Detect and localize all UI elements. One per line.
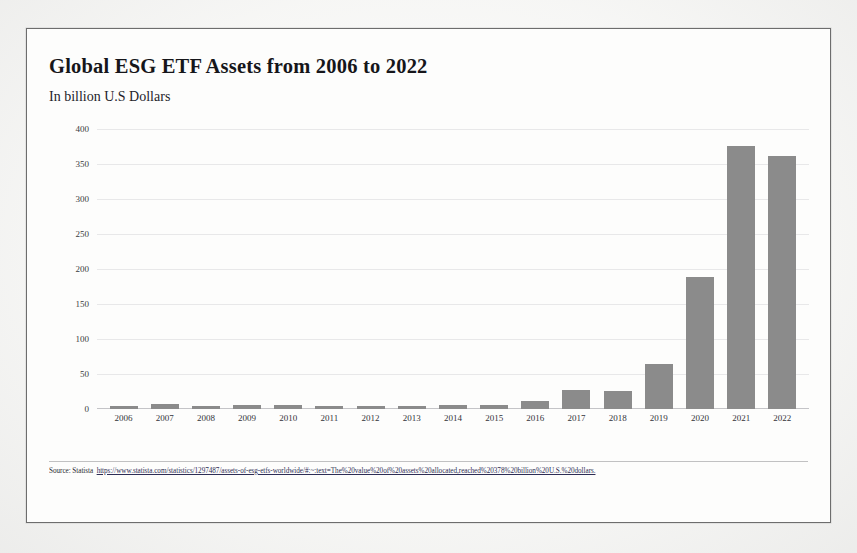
y-axis-tick-label: 50 [80,369,89,379]
x-axis-tick-label: 2016 [515,413,556,423]
bar-2012[interactable] [357,406,385,410]
bar-2009[interactable] [233,405,261,409]
x-axis-tick-label: 2009 [227,413,268,423]
bar-2022[interactable] [768,156,796,409]
document-page: Global ESG ETF Assets from 2006 to 2022 … [26,28,831,523]
bar-slot [391,129,432,409]
bar-2018[interactable] [604,391,632,409]
source-url-link[interactable]: https://www.statista.com/statistics/1297… [97,467,596,475]
y-axis-tick-label: 350 [76,159,90,169]
bar-2011[interactable] [315,406,343,410]
page-title: Global ESG ETF Assets from 2006 to 2022 [49,55,428,78]
bar-2019[interactable] [645,364,673,409]
bar-slot [144,129,185,409]
x-axis-tick-label: 2022 [762,413,803,423]
bar-slot [474,129,515,409]
bar-slot [103,129,144,409]
y-axis-tick-label: 150 [76,299,90,309]
bar-slot [309,129,350,409]
y-axis-tick-label: 250 [76,229,90,239]
bar-slot [227,129,268,409]
x-axis: 2006200720082009201020112012201320142015… [97,413,809,423]
source-citation: Source: Statista https://www.statista.co… [49,467,812,475]
x-axis-tick-label: 2011 [309,413,350,423]
chart-subtitle: In billion U.S Dollars [49,89,170,105]
bar-slot [679,129,720,409]
bar-slot [638,129,679,409]
y-axis-tick-label: 100 [76,334,90,344]
bar-slot [762,129,803,409]
y-axis-tick-label: 0 [85,404,90,414]
y-axis-tick-label: 300 [76,194,90,204]
grid-area [97,129,809,409]
chart-plot-area: 050100150200250300350400 200620072008200… [49,129,809,449]
bar-slot [268,129,309,409]
bar-slot [721,129,762,409]
x-axis-tick-label: 2008 [185,413,226,423]
x-axis-tick-label: 2010 [268,413,309,423]
bar-slot [556,129,597,409]
x-axis-tick-label: 2021 [721,413,762,423]
bar-slot [597,129,638,409]
y-axis: 050100150200250300350400 [49,129,95,409]
x-axis-tick-label: 2014 [432,413,473,423]
bar-slot [515,129,556,409]
x-axis-tick-label: 2020 [679,413,720,423]
bar-2014[interactable] [439,405,467,409]
bar-2021[interactable] [727,146,755,409]
y-axis-tick-label: 200 [76,264,90,274]
bar-2010[interactable] [274,405,302,409]
bar-slot [185,129,226,409]
bar-2007[interactable] [151,404,179,409]
bar-2016[interactable] [521,401,549,409]
source-divider [49,461,808,462]
x-axis-tick-label: 2007 [144,413,185,423]
x-axis-tick-label: 2019 [638,413,679,423]
bar-slot [350,129,391,409]
x-axis-tick-label: 2017 [556,413,597,423]
bar-series [97,129,809,409]
bar-2017[interactable] [562,390,590,409]
bar-2015[interactable] [480,405,508,409]
x-axis-tick-label: 2012 [350,413,391,423]
y-axis-tick-label: 400 [76,124,90,134]
x-axis-tick-label: 2013 [391,413,432,423]
bar-2020[interactable] [686,277,714,409]
x-axis-tick-label: 2015 [474,413,515,423]
source-label: Source: Statista [49,467,93,475]
x-axis-tick-label: 2006 [103,413,144,423]
bar-2013[interactable] [398,406,426,410]
bar-2006[interactable] [110,406,138,409]
bar-2008[interactable] [192,406,220,409]
x-axis-tick-label: 2018 [597,413,638,423]
bar-slot [432,129,473,409]
